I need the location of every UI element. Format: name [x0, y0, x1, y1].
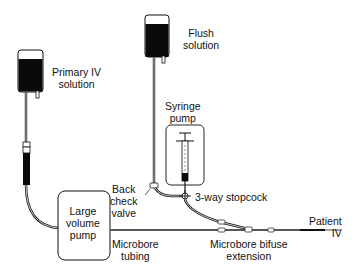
- label-line: IV: [309, 227, 342, 239]
- label-primary-iv-solution: Primary IV solution: [52, 66, 101, 90]
- label-line: 3-way stopcock: [195, 191, 267, 203]
- primary-iv-bag-icon: [18, 50, 43, 98]
- label-line: Patient: [309, 215, 342, 227]
- back-check-valve-icon: [150, 183, 158, 188]
- iv-setup-diagram: Primary IV solution Flush solution Syrin…: [0, 0, 357, 275]
- label-flush-solution: Flush solution: [183, 27, 219, 51]
- label-line: extension: [210, 250, 288, 262]
- label-bifuse-extension: Microbore bifuse extension: [210, 238, 288, 262]
- label-line: tubing: [112, 250, 159, 262]
- label-line: Large: [66, 205, 100, 217]
- label-line: Back: [110, 183, 137, 195]
- label-line: Syringe: [165, 100, 201, 112]
- clamp-icon: [218, 228, 225, 232]
- label-back-check-valve: Back check valve: [110, 183, 137, 219]
- diagram-graphics: [0, 0, 357, 275]
- label-microbore-tubing: Microbore tubing: [112, 238, 159, 262]
- label-large-volume-pump: Large volume pump: [66, 205, 100, 241]
- label-line: valve: [110, 207, 137, 219]
- label-line: Microbore: [112, 238, 159, 250]
- label-line: volume: [66, 217, 100, 229]
- flush-bag-icon: [145, 15, 169, 63]
- label-line: Primary IV: [52, 66, 101, 78]
- label-line: pump: [66, 229, 100, 241]
- clamp-icon: [218, 220, 225, 224]
- label-line: solution: [52, 78, 101, 90]
- clamp-icon: [268, 228, 274, 232]
- label-line: check: [110, 195, 137, 207]
- label-line: Microbore bifuse: [210, 238, 288, 250]
- y-junction-icon: [245, 227, 252, 232]
- label-line: solution: [183, 39, 219, 51]
- label-line: pump: [165, 112, 201, 124]
- label-patient-iv: Patient IV: [309, 215, 342, 239]
- label-line: Flush: [183, 27, 219, 39]
- drip-chamber-icon: [23, 142, 30, 185]
- label-3-way-stopcock: 3-way stopcock: [195, 191, 267, 203]
- label-syringe-pump: Syringe pump: [165, 100, 201, 124]
